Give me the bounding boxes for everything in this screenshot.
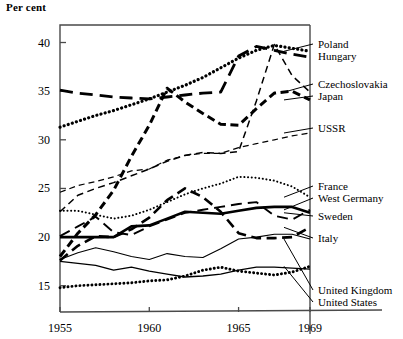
legend-labels: PolandHungaryCzechoslovakiaJapanUSSRFran… [318, 38, 393, 308]
series-line-ussr [60, 133, 310, 192]
legend-label-poland: Poland [318, 38, 349, 50]
y-tick-label: 40 [38, 36, 50, 50]
series-line-sweden [60, 207, 310, 237]
x-tick-label: 1969 [298, 321, 322, 335]
leader-line [284, 128, 313, 133]
legend-label-united-states: United States [318, 296, 377, 308]
y-tick-label: 30 [38, 133, 50, 147]
legend-label-italy: Italy [318, 232, 339, 244]
y-tick-label: 15 [38, 279, 50, 293]
legend-label-czechoslovakia: Czechoslovakia [318, 78, 388, 90]
x-tick-label: 1960 [137, 321, 161, 335]
series-line-czechoslovakia [60, 45, 310, 212]
leader-line [284, 266, 313, 302]
legend-label-hungary: Hungary [318, 50, 357, 62]
series-line-poland [60, 45, 310, 127]
series-line-italy [60, 188, 310, 260]
legend-label-sweden: Sweden [318, 210, 353, 222]
legend-label-ussr: USSR [318, 122, 346, 134]
x-tick-label: 1965 [227, 321, 251, 335]
chart-root: Per cent 403530252015 1955196019651969 P… [0, 0, 403, 339]
x-tick-label: 1955 [48, 321, 72, 335]
series-line-japan [60, 88, 310, 256]
y-tick-label: 20 [38, 230, 50, 244]
series-group [60, 45, 310, 288]
legend-leader-lines [284, 44, 313, 302]
leader-line [284, 186, 313, 197]
leader-line [284, 84, 313, 92]
y-tick-label: 25 [38, 181, 50, 195]
series-line-hungary [60, 46, 310, 99]
legend-label-united-kingdom: United Kingdom [318, 284, 393, 296]
legend-label-west-germany: West Germany [318, 192, 384, 204]
leader-line [284, 239, 313, 290]
line-chart-svg: 403530252015 1955196019651969 PolandHung… [0, 0, 403, 339]
y-tick-label: 35 [38, 84, 50, 98]
legend-label-japan: Japan [318, 90, 344, 102]
legend-label-france: France [318, 180, 348, 192]
